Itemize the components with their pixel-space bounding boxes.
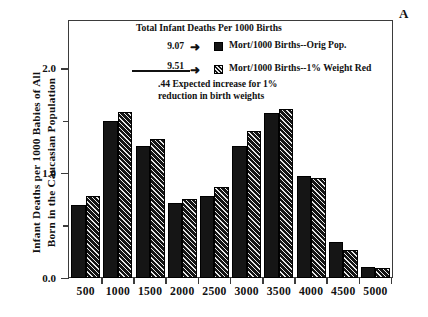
bar-5000-orig [361,267,376,279]
legend-row-weightred: 9.51 ➜ Mort/1000 Births--1% Weight Red [128,59,388,76]
x-tick-3500 [294,278,296,284]
y-axis-title: Infant Deaths per 1000 Babies of All Bor… [29,38,58,288]
bar-1500-weightred [150,139,165,279]
bar-5000-weightred [375,268,390,278]
bar-3000-weightred [247,131,262,278]
arrow-right-icon: ➜ [190,42,200,52]
legend-label-weightred: Mort/1000 Births--1% Weight Red [229,62,371,73]
x-tick-500 [101,278,103,284]
bar-4000-orig [297,176,312,278]
bar-2500-orig [200,196,215,278]
legend-label-orig: Mort/1000 Births--Orig Pop. [229,39,347,50]
y-tick-0.0 [61,278,69,280]
legend-divider-rule [132,70,190,71]
y-tick-1.0 [61,173,69,175]
bar-4000-weightred [311,178,326,278]
bar-1000-weightred [118,112,133,278]
x-tick-2500 [230,278,232,284]
bar-500-weightred [86,196,101,278]
panel-letter: A [399,6,409,22]
x-tick-label-5000: 5000 [353,285,399,298]
chart-figure: A Infant Deaths per 1000 Babies of All B… [0,0,428,317]
bar-1500-orig [136,146,151,278]
y-tick-0.5 [63,225,69,227]
legend-header: Total Infant Deaths Per 1000 Births [136,22,388,34]
x-tick-3000 [262,278,264,284]
legend-value-orig: 9.07 [152,40,184,51]
legend-swatch-solid [214,42,223,51]
arrow-right-icon-2: ➜ [190,65,200,75]
y-tick-label-1.0: 1.0 [22,167,56,179]
bar-4500-orig [329,242,344,278]
x-tick-5000 [391,278,393,284]
bar-1000-orig [103,121,118,278]
bar-3500-orig [264,113,279,278]
x-tick-4500 [359,278,361,284]
bar-4500-weightred [343,250,358,278]
bar-2000-orig [168,203,183,279]
chart-legend: Total Infant Deaths Per 1000 Births 9.07… [128,22,388,103]
x-tick-2000 [198,278,200,284]
bar-500-orig [71,205,86,278]
bar-3000-orig [232,146,247,278]
legend-swatch-hatched [214,65,223,74]
bar-2000-weightred [182,199,197,278]
y-tick-1.5 [63,121,69,123]
y-tick-2.0 [61,68,69,70]
legend-row-orig: 9.07 ➜ Mort/1000 Births--Orig Pop. [128,39,388,56]
y-tick-label-2.0: 2.0 [22,62,56,74]
x-tick-1500 [165,278,167,284]
legend-note: .44 Expected increase for 1% reduction i… [158,78,388,102]
x-tick-4000 [326,278,328,284]
x-tick-1000 [133,278,135,284]
y-tick-label-0.0: 0.0 [22,272,56,284]
bar-2500-weightred [214,187,229,278]
bar-3500-weightred [279,109,294,278]
